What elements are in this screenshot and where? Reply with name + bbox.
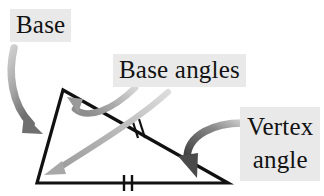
- geometry-figure: Base Base angles Vertex angle: [0, 0, 324, 196]
- base-angle-arrow-apex: [67, 88, 135, 113]
- label-vertex-angle-line1: Vertex: [247, 110, 313, 143]
- label-base-angles: Base angles: [113, 54, 246, 87]
- base-arrow: [11, 48, 43, 134]
- label-vertex-angle-line2: angle: [247, 143, 313, 176]
- label-vertex-angle: Vertex angle: [240, 107, 320, 181]
- label-base: Base: [10, 9, 71, 42]
